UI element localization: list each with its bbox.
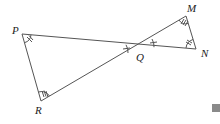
gray-square-marker bbox=[212, 104, 220, 112]
label-P: P bbox=[12, 25, 19, 36]
label-Q: Q bbox=[136, 52, 144, 63]
label-N: N bbox=[201, 48, 208, 59]
segment-RM bbox=[41, 16, 186, 101]
segment-PR bbox=[22, 34, 41, 101]
label-R: R bbox=[35, 105, 42, 116]
segment-PN bbox=[22, 34, 196, 49]
triangles-figure bbox=[0, 0, 220, 124]
label-M: M bbox=[187, 3, 196, 14]
diagram: P R Q M N bbox=[0, 0, 220, 124]
